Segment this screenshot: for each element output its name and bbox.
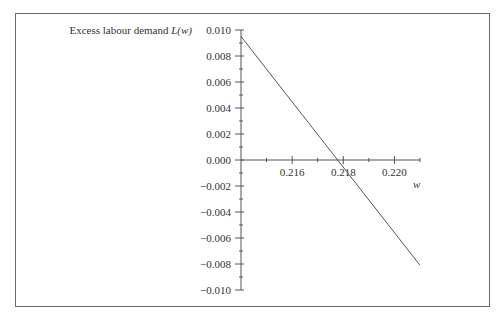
x-axis: 0.2160.2180.220 <box>241 156 420 178</box>
y-tick-label: −0.008 <box>200 258 231 270</box>
x-tick-label: 0.216 <box>280 166 305 178</box>
y-tick-label: −0.002 <box>200 180 231 192</box>
series-line <box>241 37 420 266</box>
y-tick-label: 0.000 <box>206 154 231 166</box>
y-tick-label: −0.006 <box>200 232 231 244</box>
y-tick-label: −0.004 <box>200 206 231 218</box>
x-tick-label: 0.220 <box>382 166 407 178</box>
y-tick-label: 0.010 <box>206 24 231 36</box>
y-tick-label: 0.002 <box>206 128 231 140</box>
y-tick-label: −0.010 <box>200 284 231 296</box>
y-tick-label: 0.008 <box>206 50 231 62</box>
y-tick-label: 0.006 <box>206 76 231 88</box>
y-axis: 0.0100.0080.0060.0040.0020.000−0.002−0.0… <box>200 24 244 296</box>
x-axis-label: w <box>413 178 421 190</box>
line-chart: 0.0100.0080.0060.0040.0020.000−0.002−0.0… <box>0 0 501 322</box>
y-axis-label: Excess labour demand L(w) <box>70 24 193 37</box>
data-series <box>241 37 420 266</box>
y-tick-label: 0.004 <box>206 102 231 114</box>
